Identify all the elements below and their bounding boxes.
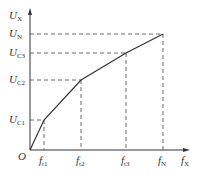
x-axis-label: fX — [181, 154, 189, 168]
y-axis-label: UX — [9, 9, 22, 23]
x-axis-arrow-icon — [183, 148, 190, 152]
origin-label: O — [18, 150, 26, 162]
vf-curve — [30, 34, 163, 150]
y-tick-un: UN — [9, 27, 22, 41]
diagram-canvas: UX UN UC3 UC2 UC1 O ft1 ft2 ft3 fN fX — [0, 0, 200, 180]
guide-lines — [30, 34, 163, 150]
y-tick-uc2: UC2 — [9, 73, 26, 87]
y-tick-uc1: UC1 — [9, 113, 26, 127]
x-tick-ft2: ft2 — [76, 154, 85, 168]
y-tick-uc3: UC3 — [9, 46, 26, 60]
x-tick-ft1: ft1 — [39, 154, 48, 168]
x-tick-fn: fN — [158, 154, 166, 168]
y-axis-arrow-icon — [28, 8, 32, 15]
vf-curve-diagram: UX UN UC3 UC2 UC1 O ft1 ft2 ft3 fN fX — [0, 0, 200, 180]
x-tick-ft3: ft3 — [121, 154, 130, 168]
